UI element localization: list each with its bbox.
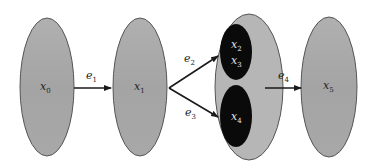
label-e3: e3	[185, 107, 196, 123]
label-x2: x2	[231, 39, 242, 55]
label-x0: x0	[40, 81, 51, 97]
state-transition-diagram	[0, 0, 374, 166]
label-x1: x1	[134, 81, 145, 97]
label-e2: e2	[184, 53, 195, 69]
label-e4: e4	[278, 70, 289, 86]
label-x3: x3	[231, 55, 242, 71]
label-x4: x4	[231, 111, 242, 127]
label-e1: e1	[86, 70, 97, 86]
label-x5: x5	[323, 80, 334, 96]
